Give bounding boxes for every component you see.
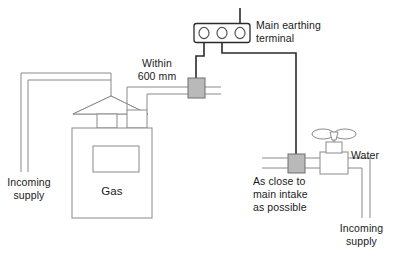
- water-valve-bonnet: [326, 142, 342, 153]
- gas-meter-label: Gas: [82, 185, 142, 198]
- earth-conductor-to-gas-clamp: [196, 40, 204, 78]
- incoming-supply-left-label-line1: Incoming: [0, 176, 58, 189]
- terminal-hole-1-icon: [199, 27, 209, 38]
- incoming-supply-right-label-line2: supply: [329, 235, 394, 248]
- gas-meter-body: [72, 128, 152, 218]
- water-incoming-pipe-outer: [348, 158, 370, 218]
- gas-outlet-pipe-inner: [147, 94, 189, 110]
- within-600mm-label-line1: Within: [126, 57, 188, 70]
- water-incoming-pipe-inner: [348, 168, 362, 218]
- incoming-supply-right-label-line1: Incoming: [329, 222, 394, 235]
- gas-bonding-clamp: [188, 78, 205, 98]
- as-close-to-main-intake-label-line2: main intake: [253, 188, 308, 201]
- gas-meter-outlet-stub: [127, 110, 147, 128]
- as-close-to-main-intake-label-line3: as possible: [253, 201, 307, 214]
- gas-outlet-pipe-outer: [127, 87, 189, 110]
- water-valve-body: [320, 152, 348, 174]
- water-bonding-clamp: [288, 154, 305, 173]
- gas-meter-display: [93, 146, 139, 172]
- terminal-hole-3-icon: [235, 27, 245, 38]
- water-valve-handwheel-hub-icon: [330, 132, 338, 140]
- diagram-graphics: [0, 0, 394, 256]
- main-earthing-terminal-label-line1: Main earthing: [256, 19, 321, 32]
- diagram-canvas: Main earthing terminal Within 600 mm Gas…: [0, 0, 394, 256]
- incoming-supply-left-label-line2: supply: [0, 189, 58, 202]
- main-earthing-terminal-label-line2: terminal: [256, 32, 294, 45]
- gas-regulator-neck: [97, 114, 117, 128]
- within-600mm-label-line2: 600 mm: [126, 70, 188, 83]
- as-close-to-main-intake-label-line1: As close to: [253, 175, 305, 188]
- earth-conductor-to-water-clamp: [222, 40, 296, 154]
- water-label: Water: [351, 149, 379, 162]
- terminal-hole-2-icon: [217, 27, 227, 38]
